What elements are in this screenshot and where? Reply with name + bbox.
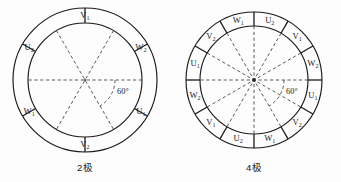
- phase-label-two-pole-5: U2: [25, 42, 34, 53]
- phase-label-four-pole-10: V2: [206, 31, 215, 42]
- segment-divider-four-pole: [220, 21, 227, 33]
- diagram-four-pole: U2V1W2U1V2W1U2V1W2U1V2W160°: [186, 12, 322, 148]
- angle-arc-two-pole: [100, 80, 115, 106]
- segment-divider-four-pole: [195, 107, 207, 114]
- phase-label-four-pole-4: V2: [293, 117, 302, 128]
- angle-label-four-pole: 60°: [286, 87, 298, 96]
- phase-label-two-pole-0: V1: [80, 9, 89, 20]
- phase-label-four-pole-11: W1: [233, 15, 244, 26]
- caption-four-pole: 4极: [209, 160, 299, 174]
- phase-label-four-pole-1: V1: [293, 31, 302, 42]
- phase-label-two-pole-2: U1: [136, 106, 145, 117]
- figure-stage: V1W2U1V2W1U260°U2V1W2U1V2W1U2V1W2U1V2W16…: [0, 0, 341, 182]
- angle-arc-four-pole: [269, 80, 284, 106]
- phase-label-four-pole-5: W1: [264, 133, 275, 144]
- segment-divider-four-pole: [220, 127, 227, 139]
- phase-label-four-pole-2: W2: [307, 58, 318, 69]
- diagram-two-pole: V1W2U1V2W1U260°: [13, 8, 157, 152]
- segment-divider-four-pole: [281, 21, 288, 33]
- segment-divider-four-pole: [301, 107, 313, 114]
- phase-label-two-pole-3: V2: [80, 138, 89, 149]
- phase-label-two-pole-1: W2: [135, 42, 146, 53]
- segment-divider-four-pole: [195, 46, 207, 53]
- phase-label-four-pole-6: U2: [234, 133, 243, 144]
- angle-label-two-pole: 60°: [117, 87, 129, 96]
- phase-label-four-pole-3: U1: [308, 90, 317, 101]
- phase-label-four-pole-9: U1: [190, 58, 199, 69]
- stator-winding-diagram: V1W2U1V2W1U260°U2V1W2U1V2W1U2V1W2U1V2W16…: [0, 0, 341, 182]
- caption-two-pole: 2极: [40, 160, 130, 174]
- phase-label-four-pole-0: U2: [265, 15, 274, 26]
- center-hub-two-pole: [84, 79, 86, 81]
- center-hub-four-pole: [252, 78, 256, 82]
- phase-label-four-pole-7: V1: [206, 117, 215, 128]
- phase-label-four-pole-8: W2: [189, 90, 200, 101]
- phase-label-two-pole-4: W1: [24, 106, 35, 117]
- segment-divider-four-pole: [281, 127, 288, 139]
- segment-divider-four-pole: [301, 46, 313, 53]
